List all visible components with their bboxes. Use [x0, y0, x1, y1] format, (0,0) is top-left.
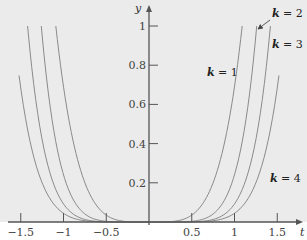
curve-label: k = 4 — [270, 172, 301, 185]
chart-svg: −1.5−1−0.50.511.5 0.20.40.60.81 t y k = … — [0, 0, 307, 240]
x-tick-label: −1 — [55, 226, 71, 239]
y-axis-label: y — [134, 2, 142, 15]
x-tick-label: 1 — [231, 226, 238, 239]
x-tick-label: 0.5 — [183, 226, 201, 239]
curve-label: k = 2 — [272, 7, 303, 20]
y-tick-label: 0.4 — [129, 138, 147, 151]
y-tick-label: 0.8 — [129, 59, 147, 72]
x-tick-label: −0.5 — [93, 226, 120, 239]
y-tick-label: 1 — [139, 20, 146, 33]
x-tick-label: −1.5 — [7, 226, 34, 239]
y-tick-label: 0.2 — [129, 177, 147, 190]
x-tick-label: 1.5 — [269, 226, 287, 239]
curve-label: k = 1 — [207, 66, 238, 79]
y-tick-label: 0.6 — [129, 98, 147, 111]
curve-label: k = 3 — [272, 38, 303, 51]
x-axis-label: t — [300, 226, 305, 239]
chart-figure: −1.5−1−0.50.511.5 0.20.40.60.81 t y k = … — [0, 0, 307, 240]
